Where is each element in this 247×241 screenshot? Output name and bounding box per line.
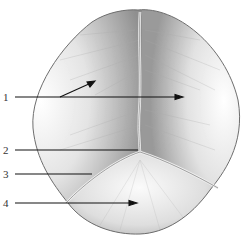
label-2: 2	[3, 145, 9, 156]
label-1: 1	[3, 92, 9, 103]
skull-illustration	[0, 0, 247, 241]
label-4: 4	[3, 198, 9, 209]
label-3: 3	[3, 169, 9, 180]
